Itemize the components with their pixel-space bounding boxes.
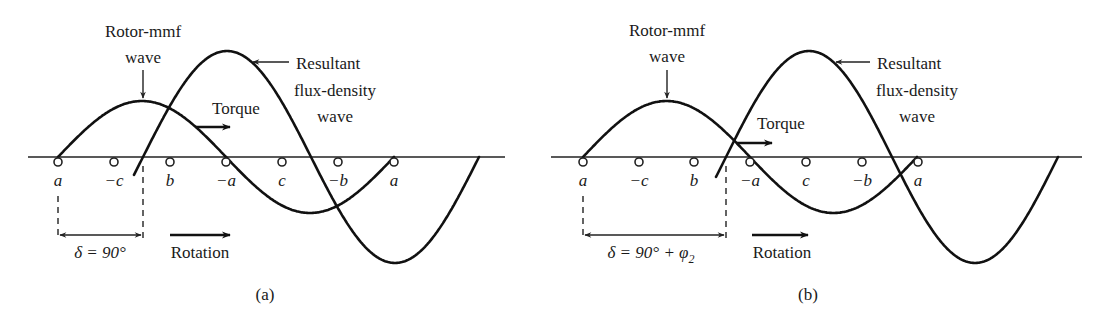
torque-label: Torque	[212, 99, 260, 118]
rotor-mmf-label-line1: Rotor-mmf	[629, 21, 705, 40]
slot-label: c	[802, 171, 810, 190]
slot-label: a	[54, 171, 63, 190]
conductor-slot-icon	[54, 158, 62, 166]
conductor-slot-icon	[858, 158, 866, 166]
synchronous-machine-torque-diagram: a−cb−ac−ba Rotor-mmf wave Resultant flux…	[0, 0, 1109, 320]
slot-label: −a	[216, 171, 236, 190]
conductor-slot-icon	[635, 158, 643, 166]
resultant-label-line3: wave	[317, 107, 353, 126]
slot-label: b	[690, 171, 699, 190]
slot-label: −c	[629, 171, 648, 190]
panel-b: a−cb−ac−ba Rotor-mmf wave Resultant flux…	[551, 21, 1082, 304]
conductor-slot-icon	[222, 158, 230, 166]
resultant-label-line2: flux-density	[876, 81, 959, 100]
rotation-label: Rotation	[171, 243, 230, 262]
slot-label: c	[278, 171, 286, 190]
conductor-slot-icon	[690, 158, 698, 166]
conductor-slot-icon	[110, 158, 118, 166]
delta-label: δ = 90°	[74, 243, 126, 262]
slot-label: −c	[104, 171, 123, 190]
slot-label: −b	[852, 171, 872, 190]
slot-label: a	[914, 171, 923, 190]
panel-caption: (b)	[798, 285, 818, 304]
panel-a: a−cb−ac−ba Rotor-mmf wave Resultant flux…	[28, 22, 505, 304]
delta-label-subscript: 2	[689, 252, 695, 266]
delta-label: δ = 90° + φ2	[607, 243, 694, 266]
conductor-slot-icon	[166, 158, 174, 166]
conductor-slot-icon	[278, 158, 286, 166]
resultant-label-line1: Resultant	[877, 54, 941, 73]
slot-label: −b	[328, 171, 348, 190]
slot-label: a	[579, 171, 588, 190]
delta-label-main: δ = 90° + φ	[607, 243, 688, 262]
resultant-label-line2: flux-density	[294, 81, 377, 100]
slot-label: −a	[740, 171, 760, 190]
conductor-slot-icon	[746, 158, 754, 166]
conductor-slot-icon	[334, 158, 342, 166]
conductor-slots: a−cb−ac−ba	[579, 158, 923, 190]
conductor-slot-icon	[914, 158, 922, 166]
rotor-mmf-label-line2: wave	[125, 48, 161, 67]
conductor-slot-icon	[802, 158, 810, 166]
resultant-label-line3: wave	[899, 107, 935, 126]
rotation-label: Rotation	[753, 243, 812, 262]
conductor-slot-icon	[579, 158, 587, 166]
conductor-slots: a−cb−ac−ba	[54, 158, 399, 190]
slot-label: a	[390, 171, 399, 190]
conductor-slot-icon	[390, 158, 398, 166]
torque-label: Torque	[757, 114, 805, 133]
rotor-mmf-label-line1: Rotor-mmf	[105, 22, 181, 41]
rotor-mmf-label-line2: wave	[649, 47, 685, 66]
slot-label: b	[166, 171, 175, 190]
panel-caption: (a)	[256, 285, 275, 304]
resultant-label-line1: Resultant	[296, 54, 360, 73]
